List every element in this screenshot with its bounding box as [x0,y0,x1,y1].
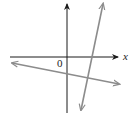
shallow-negative-slope-line [12,63,119,84]
origin-label: 0 [57,58,63,69]
x-axis-label: x [123,51,128,62]
diagram-svg [0,0,137,117]
coordinate-diagram: 0 x [0,0,137,117]
